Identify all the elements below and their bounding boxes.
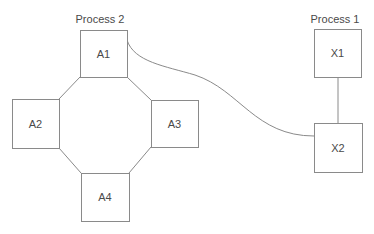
node-label: A4 bbox=[98, 191, 111, 203]
group-label-process2: Process 2 bbox=[76, 13, 125, 25]
nodes-layer: A1A2A3A4X1X2 bbox=[13, 30, 363, 222]
group-labels-layer: Process 2Process 1 bbox=[76, 13, 360, 25]
node-a2: A2 bbox=[13, 100, 60, 149]
edge-a3-a4 bbox=[129, 147, 151, 173]
edge-a1-a2 bbox=[59, 77, 80, 99]
node-label: A3 bbox=[168, 118, 181, 130]
node-label: X1 bbox=[331, 47, 344, 59]
node-label: A1 bbox=[97, 48, 110, 60]
node-x1: X1 bbox=[315, 30, 362, 78]
node-label: A2 bbox=[29, 118, 42, 130]
diagram-canvas: A1A2A3A4X1X2 Process 2Process 1 bbox=[0, 0, 374, 234]
edge-a1-a3 bbox=[127, 77, 151, 100]
node-a3: A3 bbox=[152, 101, 199, 148]
edge-a2-a4 bbox=[59, 148, 81, 173]
node-a4: A4 bbox=[82, 174, 130, 222]
node-a1: A1 bbox=[81, 31, 128, 78]
group-label-process1: Process 1 bbox=[311, 13, 360, 25]
node-x2: X2 bbox=[315, 124, 363, 173]
node-label: X2 bbox=[331, 142, 344, 154]
